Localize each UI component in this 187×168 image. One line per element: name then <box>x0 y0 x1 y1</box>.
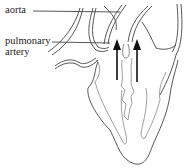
aorta-leader-line <box>33 11 120 12</box>
heart-diagram <box>0 0 187 168</box>
arrow-right-head <box>133 39 141 50</box>
flow-arrows <box>113 39 141 82</box>
pulmonary-leader-line <box>52 42 110 43</box>
arrow-left-head <box>113 39 121 50</box>
